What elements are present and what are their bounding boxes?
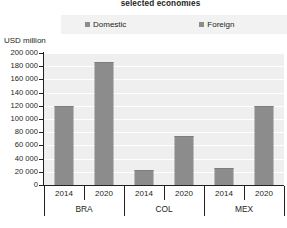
x-axis-group-label: BRA	[44, 201, 124, 216]
y-axis-tick-mark	[39, 66, 43, 67]
bar-series	[44, 53, 284, 185]
page-title: selected economies	[0, 0, 287, 9]
x-axis-year-label: 2020	[244, 186, 284, 201]
legend-item-domestic[interactable]: Domestic	[85, 20, 126, 29]
y-axis-tick-label: 60 000	[1, 141, 38, 149]
legend-label-domestic: Domestic	[93, 20, 126, 29]
bar-slot	[244, 53, 284, 185]
x-axis-group-separator	[44, 186, 45, 216]
chart-title-container: selected economies	[0, 0, 287, 13]
x-axis-group-separator	[284, 186, 285, 216]
y-axis-tick-label: 120 000	[1, 102, 38, 110]
y-axis-labels: 200 000180 000160 000140 000120 000100 0…	[0, 0, 38, 228]
bar-mex-2014[interactable]	[215, 168, 234, 185]
y-axis-tick-label: 200 000	[1, 49, 38, 57]
y-axis-tick-mark	[39, 93, 43, 94]
legend-item-foreign[interactable]: Foreign	[199, 20, 234, 29]
bar-mex-2020[interactable]	[255, 106, 274, 185]
legend-swatch-domestic-icon	[85, 22, 90, 27]
y-axis-tick-mark	[39, 185, 43, 186]
chart-legend: Domestic Foreign	[61, 15, 287, 34]
y-axis-tick-label: 80 000	[1, 128, 38, 136]
x-axis-group-label: MEX	[204, 201, 284, 216]
legend-label-foreign: Foreign	[207, 20, 234, 29]
x-axis-year-label: 2014	[204, 186, 244, 201]
y-axis-tick-mark	[39, 119, 43, 120]
y-axis-tick-mark	[39, 53, 43, 54]
y-axis-tick-mark	[39, 172, 43, 173]
bar-slot	[84, 53, 124, 185]
bar-slot	[44, 53, 84, 185]
y-axis-tick-label: 40 000	[1, 155, 38, 163]
bar-slot	[164, 53, 204, 185]
x-axis-group-label: COL	[124, 201, 204, 216]
y-axis-tick-mark	[39, 79, 43, 80]
plot-area	[44, 53, 284, 185]
x-axis-year-separator	[164, 186, 165, 200]
bar-col-2020[interactable]	[175, 136, 194, 185]
bar-bra-2020[interactable]	[95, 62, 114, 185]
x-axis-year-label: 2020	[164, 186, 204, 201]
x-axis-year-label: 2014	[44, 186, 84, 201]
y-axis-tick-mark	[39, 106, 43, 107]
y-axis-tick-label: 0	[1, 181, 38, 189]
legend-swatch-foreign-icon	[199, 22, 204, 27]
y-axis-tick-label: 160 000	[1, 75, 38, 83]
bar-col-2014[interactable]	[135, 170, 154, 185]
y-axis-tick-label: 180 000	[1, 62, 38, 70]
bar-slot	[124, 53, 164, 185]
x-axis-year-separator	[84, 186, 85, 200]
bar-bra-2014[interactable]	[55, 106, 74, 185]
y-axis-tick-mark	[39, 132, 43, 133]
x-axis-year-separator	[244, 186, 245, 200]
y-axis-tick-mark	[39, 159, 43, 160]
y-axis-tick-label: 20 000	[1, 168, 38, 176]
y-axis-tick-label: 140 000	[1, 89, 38, 97]
x-axis-group-labels: BRACOLMEX	[44, 201, 284, 216]
y-axis-line	[43, 52, 44, 186]
bar-slot	[204, 53, 244, 185]
x-axis-year-label: 2014	[124, 186, 164, 201]
x-axis-group-separator	[204, 186, 205, 216]
x-axis-year-label: 2020	[84, 186, 124, 201]
y-axis-tick-label: 100 000	[1, 115, 38, 123]
y-axis-tick-mark	[39, 145, 43, 146]
x-axis-group-separator	[124, 186, 125, 216]
